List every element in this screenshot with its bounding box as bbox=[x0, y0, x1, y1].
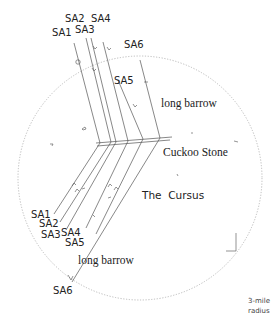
label-sa2-north: SA2 bbox=[65, 13, 85, 24]
label-sa1-north: SA1 bbox=[52, 27, 72, 38]
arrow-mark bbox=[133, 104, 137, 107]
radius-label-line1: 3-mile bbox=[248, 297, 270, 305]
label-sa6-south: SA6 bbox=[53, 285, 73, 296]
junction-bar-2 bbox=[97, 140, 170, 146]
feature-mark bbox=[226, 233, 236, 251]
sightline-sa4-north bbox=[103, 42, 128, 141]
sightline-sa5-south bbox=[96, 139, 143, 234]
radius-label-line2: radius bbox=[248, 307, 270, 315]
feature-mark bbox=[177, 174, 178, 176]
arrow-mark bbox=[72, 183, 76, 186]
label-sa6-north: SA6 bbox=[124, 39, 144, 50]
three-mile-radius-circle bbox=[18, 56, 262, 300]
arrow-mark bbox=[82, 188, 85, 189]
arrow-mark bbox=[92, 68, 96, 71]
label-sa5-south: SA5 bbox=[65, 237, 85, 248]
feature-mark bbox=[234, 141, 238, 142]
arrow-mark bbox=[93, 215, 95, 217]
circle-mark bbox=[76, 60, 80, 64]
label-sa5-north: SA5 bbox=[114, 75, 134, 86]
sightline-sa1-south bbox=[54, 143, 100, 214]
sightline-sa6-north bbox=[140, 60, 160, 138]
arrow-mark bbox=[114, 187, 118, 190]
sightline-sa2-south bbox=[60, 142, 111, 222]
label-the-cursus: The Cursus bbox=[141, 189, 204, 201]
label-sa3-north: SA3 bbox=[75, 24, 95, 35]
arrow-mark bbox=[108, 197, 111, 198]
label-long-barrow-south: long barrow bbox=[78, 254, 135, 267]
sightline-sa5-north bbox=[118, 80, 143, 139]
junction-bar bbox=[96, 137, 172, 143]
feature-mark bbox=[50, 144, 53, 146]
label-long-barrow-north: long barrow bbox=[161, 97, 218, 110]
feature-mark bbox=[82, 127, 86, 130]
sightline-sa4-south bbox=[86, 141, 128, 228]
label-sa3-south: SA3 bbox=[41, 229, 61, 240]
sightline-sa3-north bbox=[91, 38, 116, 142]
sightline-diagram: SA1 SA2 SA3 SA4 SA5 SA6 long barrow Cuck… bbox=[0, 0, 275, 323]
arrow-mark bbox=[108, 184, 112, 187]
arrow-mark bbox=[75, 189, 79, 192]
sightline-sa2-north bbox=[86, 38, 111, 142]
label-sa4-north: SA4 bbox=[91, 13, 111, 24]
arrow-mark bbox=[107, 47, 111, 50]
label-cuckoo-stone: Cuckoo Stone bbox=[163, 146, 228, 158]
label-sa2-south: SA2 bbox=[39, 218, 59, 229]
